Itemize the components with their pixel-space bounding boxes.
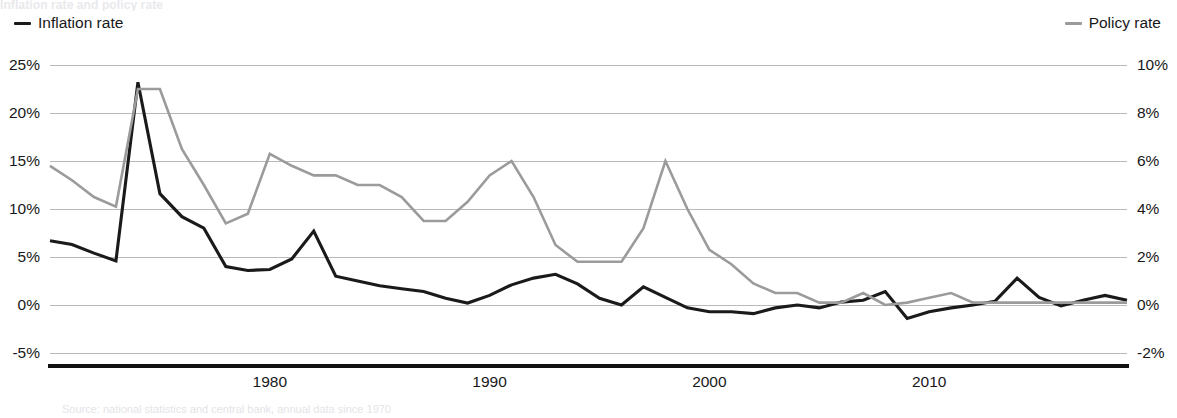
gridlines (50, 65, 1127, 353)
y-axis-right-tick: 6% (1129, 153, 1159, 169)
y-axis-right-tick: 4% (1129, 201, 1159, 217)
y-axis-left-tick: 15% (9, 153, 48, 169)
y-axis-right-tick: 0% (1129, 297, 1159, 313)
y-axis-left-tick: 0% (18, 297, 48, 313)
y-axis-right-tick: -2% (1129, 345, 1165, 361)
y-axis-right-tick: 2% (1129, 249, 1159, 265)
y-axis-left-tick: 5% (18, 249, 48, 265)
y-axis-right-tick: 10% (1129, 57, 1168, 73)
cropped-source-note: Source: national statistics and central … (62, 402, 702, 416)
y-axis-right-tick: 8% (1129, 105, 1159, 121)
y-axis-left-tick: 10% (9, 201, 48, 217)
plot-area (0, 0, 1177, 418)
x-axis-tick: 1990 (472, 374, 506, 390)
x-axis-tick: 2000 (692, 374, 726, 390)
y-axis-left-tick: -5% (12, 345, 48, 361)
data-series (50, 82, 1127, 318)
chart-figure: Inflation rate and policy rate Inflation… (0, 0, 1177, 418)
y-axis-left-tick: 20% (9, 105, 48, 121)
x-axis-tick: 2010 (912, 374, 946, 390)
x-axis-tick: 1980 (253, 374, 287, 390)
y-axis-left-tick: 25% (9, 57, 48, 73)
series-line-policy-rate (50, 89, 1127, 305)
